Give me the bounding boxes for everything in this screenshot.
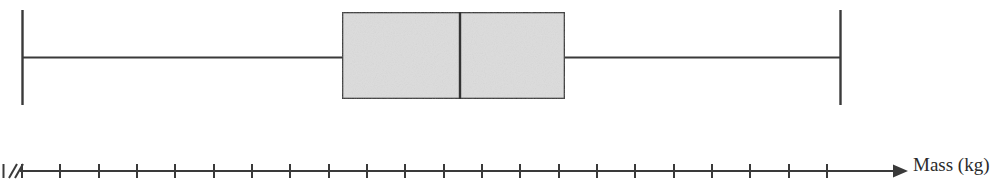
interquartile-box bbox=[342, 12, 565, 99]
box-plot-group bbox=[22, 10, 841, 105]
box-plot-canvas bbox=[0, 0, 994, 183]
axis-label-mass: Mass (kg) bbox=[913, 155, 990, 174]
axis-group bbox=[4, 164, 909, 178]
axis-arrowhead bbox=[893, 165, 908, 178]
box-plot-figure: Mass (kg) bbox=[0, 0, 994, 183]
